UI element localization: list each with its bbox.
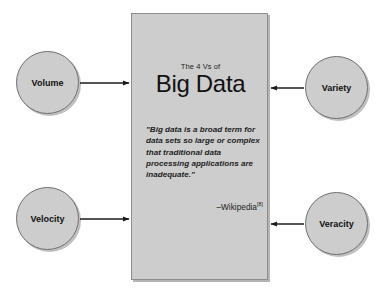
- node-volume-label: Volume: [32, 78, 64, 88]
- node-variety-label: Variety: [322, 83, 352, 93]
- panel-quote: "Big data is a broad term for data sets …: [146, 124, 262, 180]
- node-velocity: Velocity: [16, 187, 79, 250]
- attribution-text: –Wikipedia: [216, 202, 257, 212]
- node-veracity-label: Veracity: [319, 219, 354, 229]
- attribution-reference: [8]: [257, 201, 263, 207]
- panel-attribution: –Wikipedia[8]: [132, 202, 263, 212]
- big-data-panel: The 4 Vs of Big Data "Big data is a broa…: [131, 13, 268, 280]
- node-volume: Volume: [16, 51, 79, 114]
- node-variety: Variety: [305, 56, 368, 119]
- big-data-4vs-diagram: The 4 Vs of Big Data "Big data is a broa…: [0, 0, 383, 294]
- node-veracity: Veracity: [305, 192, 368, 255]
- node-velocity-label: Velocity: [30, 214, 64, 224]
- panel-title: Big Data: [132, 70, 269, 98]
